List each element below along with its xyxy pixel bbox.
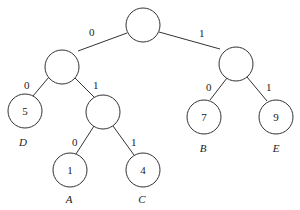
edge-lr-lrl xyxy=(76,126,94,154)
node-leaf-b: 7 B xyxy=(187,100,221,154)
node-leaf-d: 5 D xyxy=(8,94,42,148)
svg-text:A: A xyxy=(65,193,73,205)
svg-text:9: 9 xyxy=(273,111,279,123)
tree-diagram: 0 1 0 1 0 1 0 1 5 D 1 A 4 C 7 B xyxy=(0,0,300,210)
svg-text:D: D xyxy=(18,136,27,148)
edge-root-right xyxy=(159,32,220,49)
edge-label: 1 xyxy=(131,136,137,148)
edge-root-left xyxy=(78,33,127,51)
node-left-right xyxy=(86,95,120,129)
edge-label: 0 xyxy=(72,136,78,148)
edge-label: 0 xyxy=(24,79,30,91)
svg-text:B: B xyxy=(200,142,207,154)
edge-right-rr xyxy=(247,77,267,101)
edge-label: 1 xyxy=(93,79,99,91)
edge-label: 1 xyxy=(266,81,272,93)
edge-label: 0 xyxy=(89,26,95,38)
node-left xyxy=(45,50,79,84)
edge-left-lr xyxy=(75,78,94,97)
edge-right-rl xyxy=(210,78,227,100)
edge-label: 0 xyxy=(206,81,212,93)
node-root xyxy=(126,8,160,42)
node-leaf-a: 1 A xyxy=(53,153,87,205)
svg-text:E: E xyxy=(272,142,280,154)
node-right xyxy=(219,47,253,81)
svg-text:4: 4 xyxy=(140,164,146,176)
svg-text:C: C xyxy=(138,193,146,205)
svg-text:7: 7 xyxy=(201,111,207,123)
svg-text:1: 1 xyxy=(67,164,73,176)
node-leaf-c: 4 C xyxy=(126,153,160,205)
edge-label: 1 xyxy=(199,27,205,39)
edge-left-ll xyxy=(33,77,49,96)
svg-text:5: 5 xyxy=(22,105,28,117)
node-leaf-e: 9 E xyxy=(259,100,293,154)
